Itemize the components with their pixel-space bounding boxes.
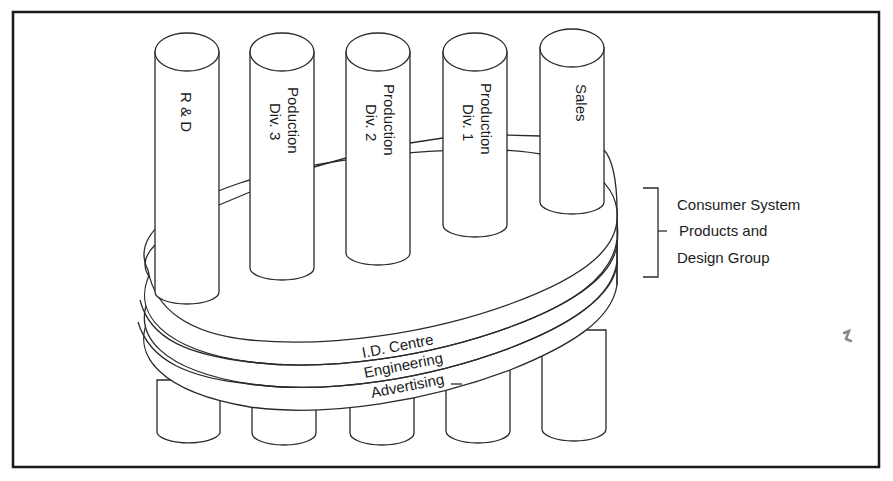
org-diagram: R & D Poduction Div. 3 Production Div. 2… (0, 0, 893, 481)
group-bracket (643, 188, 667, 277)
pillar-div2 (346, 33, 410, 265)
pillar-label-div3-sub: Div. 3 (267, 103, 284, 140)
group-label-line-1: Consumer System (677, 196, 800, 213)
group-label-line-3: Design Group (677, 249, 770, 266)
pillar-label-sales: Sales (573, 84, 590, 122)
group-label: Consumer System Products and Design Grou… (677, 196, 800, 266)
pillar-rd (155, 33, 219, 304)
pillar-label-div2: Production (381, 84, 398, 156)
pillar-label-div1: Production (478, 83, 495, 155)
pillar-div3 (250, 33, 314, 280)
pencil-mark (844, 331, 851, 341)
pillar-label-div3: Poduction (285, 87, 302, 154)
pillar-label-rd: R & D (178, 92, 195, 132)
pillar-labels: R & D Poduction Div. 3 Production Div. 2… (178, 83, 590, 156)
pillar-label-div1-sub: Div. 1 (460, 104, 477, 141)
pillar-sales (540, 29, 604, 214)
pillar-label-div2-sub: Div. 2 (363, 104, 380, 141)
group-label-line-2: Products and (679, 222, 767, 239)
